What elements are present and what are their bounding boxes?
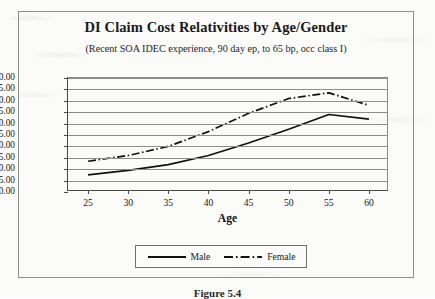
gridline <box>68 124 387 125</box>
y-tick-mark <box>64 124 68 125</box>
x-tick-label: 50 <box>274 197 304 208</box>
y-tick-mark <box>64 112 68 113</box>
gridline <box>68 78 387 79</box>
gridline <box>68 135 387 136</box>
y-tick-mark <box>64 135 68 136</box>
gridline <box>68 101 387 102</box>
chart-legend: Male Female <box>135 245 307 268</box>
y-tick-label: 5.00 <box>0 175 15 185</box>
chart-title: DI Claim Cost Relativities by Age/Gender <box>18 19 414 36</box>
y-tick-label: 40.00 <box>0 95 15 105</box>
gridline <box>68 89 387 90</box>
legend-label-female: Female <box>267 251 295 262</box>
y-tick-label: 20.00 <box>0 140 15 150</box>
y-tick-label: 35.00 <box>0 106 15 116</box>
y-tick-label: 25.00 <box>0 129 15 139</box>
y-tick-label: 10.00 <box>0 163 15 173</box>
x-tick-label: 45 <box>234 197 264 208</box>
chart-subtitle: (Recent SOA IDEC experience, 90 day ep, … <box>18 43 414 54</box>
x-axis-title: Age <box>67 212 388 225</box>
figure-caption: Figure 5.4 <box>0 287 435 299</box>
x-tick-mark <box>88 190 89 194</box>
plot-area: 0.005.0010.0015.0020.0025.0030.0035.0040… <box>67 77 388 191</box>
gridline <box>68 169 387 170</box>
x-tick-mark <box>168 190 169 194</box>
series-line-female <box>88 93 369 161</box>
gridline <box>68 181 387 182</box>
x-tick-mark <box>249 190 250 194</box>
x-tick-label: 30 <box>113 197 143 208</box>
legend-item-female: Female <box>223 251 295 262</box>
legend-item-male: Male <box>147 251 211 262</box>
gridline <box>68 158 387 159</box>
gridline <box>68 146 387 147</box>
x-tick-label: 55 <box>314 197 344 208</box>
y-tick-mark <box>64 78 68 79</box>
gridline <box>68 112 387 113</box>
y-tick-mark <box>64 158 68 159</box>
x-tick-mark <box>289 190 290 194</box>
y-tick-mark <box>64 181 68 182</box>
x-tick-mark <box>128 190 129 194</box>
x-tick-label: 35 <box>153 197 183 208</box>
y-tick-label: 30.00 <box>0 118 15 128</box>
legend-swatch-solid <box>147 253 187 261</box>
x-tick-mark <box>369 190 370 194</box>
x-tick-label: 60 <box>354 197 384 208</box>
y-tick-label: 45.00 <box>0 83 15 93</box>
y-tick-mark <box>64 101 68 102</box>
y-tick-mark <box>64 89 68 90</box>
y-tick-mark <box>64 169 68 170</box>
legend-swatch-dash-dot <box>223 253 263 261</box>
y-tick-mark <box>64 146 68 147</box>
y-tick-mark <box>64 192 68 193</box>
x-tick-label: 40 <box>193 197 223 208</box>
x-tick-mark <box>208 190 209 194</box>
x-tick-mark <box>329 190 330 194</box>
y-tick-label: 0.00 <box>0 186 15 196</box>
y-tick-label: 50.00 <box>0 72 15 82</box>
legend-label-male: Male <box>191 251 211 262</box>
x-tick-label: 25 <box>73 197 103 208</box>
y-tick-label: 15.00 <box>0 152 15 162</box>
